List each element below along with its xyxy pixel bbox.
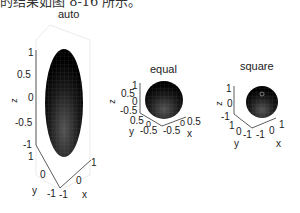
auto-zlabel: z [10, 98, 19, 103]
square-title: square [240, 60, 274, 72]
auto-ytick: -1 [47, 189, 56, 199]
square-plot [234, 86, 278, 128]
square-ytick: 0 [236, 127, 242, 137]
square-xtick: -1 [256, 130, 265, 140]
auto-plot [36, 25, 91, 190]
equal-ylabel: y [129, 127, 134, 137]
auto-xtick: 0 [76, 176, 82, 186]
equal-title: equal [150, 63, 177, 75]
square-ztick: 0 [227, 99, 233, 109]
auto-ylabel: y [32, 186, 37, 196]
auto-title: auto [58, 8, 79, 20]
square-zlabel: z [215, 101, 224, 106]
auto-ztick: -0.5 [15, 118, 32, 128]
equal-xtick: 0.5 [187, 117, 201, 127]
figure-canvas [0, 0, 300, 213]
square-xtick: 1 [279, 120, 285, 130]
square-xtick: 0 [269, 126, 275, 136]
auto-ytick: 1 [28, 152, 34, 162]
auto-xtick: 1 [91, 158, 97, 168]
auto-ztick: 0.5 [17, 70, 31, 80]
equal-zlabel: z [108, 99, 117, 104]
equal-xtick: 0 [180, 119, 185, 128]
square-ztick: 1 [226, 84, 232, 94]
square-ylabel: y [234, 139, 239, 149]
square-ytick: -1 [243, 130, 252, 140]
auto-ytick: 0 [40, 170, 46, 180]
auto-ztick: -1 [23, 140, 32, 150]
auto-ztick: 0 [28, 93, 34, 103]
auto-ztick: 1 [28, 48, 34, 58]
auto-xlabel: x [82, 190, 87, 200]
equal-xlabel: x [187, 129, 192, 139]
square-xlabel: x [276, 139, 281, 149]
equal-xtick: -0.5 [163, 126, 180, 136]
square-ytick: 1 [229, 121, 235, 131]
equal-ytick: -0.5 [140, 126, 157, 136]
auto-xtick: -1 [59, 190, 68, 200]
